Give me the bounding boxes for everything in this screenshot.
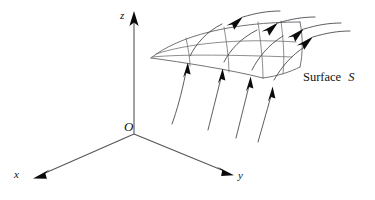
flow-line-2-below (208, 78, 221, 130)
y-axis-line (134, 134, 223, 171)
x-axis-line (44, 134, 134, 174)
coordinate-axes (33, 11, 234, 179)
flow-line-4-arrowhead-above (297, 37, 313, 50)
origin-label: O (124, 120, 133, 133)
surface-label-symbol: S (348, 70, 354, 84)
flow-line-2-arrowhead-below (218, 69, 226, 84)
y-axis-arrowhead (217, 167, 234, 176)
z-axis (129, 11, 138, 134)
x-axis-arrowhead (33, 169, 50, 178)
surface-edge-front-left (151, 58, 263, 78)
flow-line-3-tail (304, 23, 341, 29)
surface-mesh-col-1 (186, 38, 190, 66)
y-axis (134, 134, 234, 176)
surface-patch (151, 21, 302, 78)
flow-line-4-below (258, 96, 271, 142)
x-axis-label: x (14, 169, 19, 180)
flow-line-4-tail (313, 31, 350, 37)
surface-mesh-col-3 (258, 22, 263, 78)
flow-line-3-below (236, 86, 249, 138)
x-axis (33, 134, 134, 179)
flow-line-3-arrowhead-below (246, 77, 254, 92)
flow-line-1-above (190, 24, 222, 56)
flow-line-1-below (172, 72, 186, 124)
flow-line-4-arrowhead-below (268, 87, 276, 102)
surface-label: SurfaceS (303, 71, 354, 84)
surface-mesh-col-2 (224, 27, 229, 72)
diagram-svg (0, 0, 375, 200)
flow-line-4 (258, 31, 350, 142)
surface-label-text: Surface (303, 70, 341, 84)
flow-line-1-arrowhead-below (183, 63, 191, 78)
flow-line-1-tail (243, 11, 280, 17)
surface-mesh-row-2 (152, 55, 292, 57)
flow-line-2-above (224, 30, 257, 62)
z-axis-label: z (120, 10, 124, 21)
y-axis-label: y (238, 170, 243, 181)
figure-canvas: z x y O SurfaceS (0, 0, 375, 200)
flow-line-2-arrowhead-above (262, 23, 278, 36)
